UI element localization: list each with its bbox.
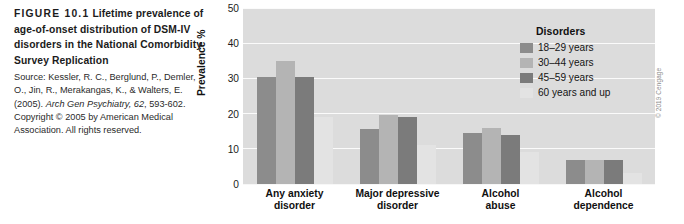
legend-swatch <box>520 58 533 68</box>
y-axis-title: Prevalence % <box>196 30 207 96</box>
bar <box>398 117 417 184</box>
bar <box>604 160 623 184</box>
legend-item-label: 30–44 years <box>538 57 594 68</box>
bar <box>501 135 520 184</box>
legend-item: 45–59 years <box>520 70 640 85</box>
x-axis-tick-label: Major depressivedisorder <box>346 188 449 213</box>
bar <box>379 115 398 184</box>
x-axis-tick-label: Alcoholabuse <box>449 188 552 213</box>
bar <box>623 173 642 184</box>
bar <box>314 117 333 184</box>
y-axis-tick-label: 40 <box>215 38 239 49</box>
bar <box>520 152 539 184</box>
bar <box>463 133 482 184</box>
figure-caption-heading: FIGURE 10.1 Lifetime prevalence of age-o… <box>14 6 210 68</box>
y-axis-tick-label: 30 <box>215 73 239 84</box>
bar <box>566 160 585 184</box>
x-axis-tick-label: Any anxietydisorder <box>243 188 346 213</box>
bar <box>417 145 436 184</box>
bar <box>276 61 295 184</box>
figure-caption: FIGURE 10.1 Lifetime prevalence of age-o… <box>14 6 210 137</box>
bar <box>482 128 501 184</box>
legend-swatch <box>520 73 533 83</box>
y-axis-ticks: 50403020100 <box>215 8 239 184</box>
bar <box>360 129 379 184</box>
legend-item: 30–44 years <box>520 55 640 70</box>
bar <box>295 77 314 184</box>
x-axis-tick-label: Alcoholdependence <box>552 188 655 213</box>
chart-legend: Disorders 18–29 years30–44 years45–59 ye… <box>520 26 640 100</box>
legend-items: 18–29 years30–44 years45–59 years60 year… <box>520 40 640 100</box>
legend-swatch <box>520 88 533 98</box>
y-axis-tick-label: 20 <box>215 108 239 119</box>
figure-number: FIGURE 10.1 <box>14 8 89 19</box>
legend-item-label: 60 years and up <box>538 87 610 98</box>
bar <box>257 77 276 184</box>
figure-source-journal: Arch Gen Psychiatry, 62 <box>46 99 144 109</box>
y-axis-tick-label: 50 <box>215 3 239 14</box>
y-axis-tick-label: 0 <box>215 179 239 190</box>
bar-group <box>360 8 436 184</box>
figure-source: Source: Kessler, R. C., Berglund, P., De… <box>14 71 210 136</box>
bar <box>585 160 604 184</box>
x-axis-ticks: Any anxietydisorderMajor depressivedisor… <box>243 188 655 222</box>
copyright-notice: © 2019 Cengage <box>655 68 662 118</box>
legend-title: Disorders <box>536 26 640 37</box>
legend-item: 60 years and up <box>520 85 640 100</box>
legend-swatch <box>520 43 533 53</box>
legend-item: 18–29 years <box>520 40 640 55</box>
bar-group <box>257 8 333 184</box>
y-axis-tick-label: 10 <box>215 143 239 154</box>
legend-item-label: 18–29 years <box>538 42 594 53</box>
legend-item-label: 45–59 years <box>538 72 594 83</box>
